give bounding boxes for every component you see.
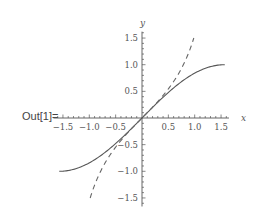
y-tick-label: 1.5: [124, 33, 138, 43]
y-tick-label: 1.0: [124, 60, 138, 70]
x-tick-label: 0.5: [162, 122, 176, 132]
x-tick-label: 1.5: [214, 122, 228, 132]
y-tick-label: −1.0: [117, 166, 138, 176]
y-axis-label: y: [139, 18, 146, 28]
axes: −1.5−1.0−0.50.51.01.51.51.00.5−0.5−1.0−1…: [53, 18, 246, 207]
x-tick-label: −1.0: [79, 122, 100, 132]
x-tick-label: 1.0: [188, 122, 202, 132]
x-axis-label: x: [241, 113, 246, 123]
x-tick-label: −1.5: [53, 122, 74, 132]
y-tick-label: −1.5: [117, 193, 138, 203]
y-tick-label: 0.5: [124, 86, 138, 96]
plot-canvas: −1.5−1.0−0.50.51.01.51.51.00.5−0.5−1.0−1…: [0, 0, 258, 220]
x-tick-label: −0.5: [105, 122, 126, 132]
